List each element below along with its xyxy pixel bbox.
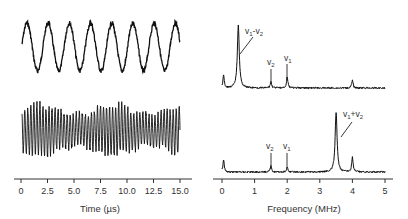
frequency-tick-label: 2 (285, 186, 290, 196)
time-tick-label: 7.5 (94, 186, 107, 196)
time-axis: 02.55.07.510.012.515.0 Time (µs) (14, 179, 192, 214)
frequency-tick-label: 1 (252, 186, 257, 196)
svg-text:v1: v1 (284, 53, 292, 64)
time-tick-label: 0 (18, 186, 23, 196)
time-tick-label: 12.5 (145, 186, 163, 196)
svg-text:v2: v2 (266, 141, 274, 152)
frequency-tick-label: 5 (382, 186, 387, 196)
annotation-difference-top: v1-v2 (240, 26, 264, 54)
frequency-tick-label: 3 (317, 186, 322, 196)
svg-text:v1-v2: v1-v2 (245, 26, 264, 37)
time-tick-label: 5.0 (68, 186, 81, 196)
time-trace-bottom (22, 101, 180, 157)
frequency-axis: 012345 Frequency (MHz) (213, 179, 393, 214)
frequency-axis-title: Frequency (MHz) (267, 203, 340, 214)
frequency-tick-label: 0 (219, 186, 224, 196)
annotation-nu2-top: v2 (267, 57, 275, 84)
frequency-tick-label: 4 (350, 186, 355, 196)
time-trace-top (22, 21, 180, 74)
svg-text:v2: v2 (267, 57, 275, 68)
time-tick-label: 10.0 (118, 186, 136, 196)
time-axis-title: Time (µs) (80, 203, 120, 214)
figure: 02.55.07.510.012.515.0 Time (µs) 012345 … (0, 0, 408, 219)
annotation-nu2-bottom: v2 (266, 141, 274, 167)
svg-text:v1: v1 (283, 141, 291, 152)
time-tick-label: 15.0 (171, 186, 189, 196)
annotation-nu1-top: v1 (284, 53, 292, 80)
svg-text:v1+v2: v1+v2 (343, 109, 364, 120)
annotation-nu1-bottom: v1 (283, 141, 291, 167)
time-tick-label: 2.5 (41, 186, 54, 196)
annotation-sum-bottom: v1+v2 (341, 109, 364, 137)
spectrum-bottom (222, 113, 385, 173)
